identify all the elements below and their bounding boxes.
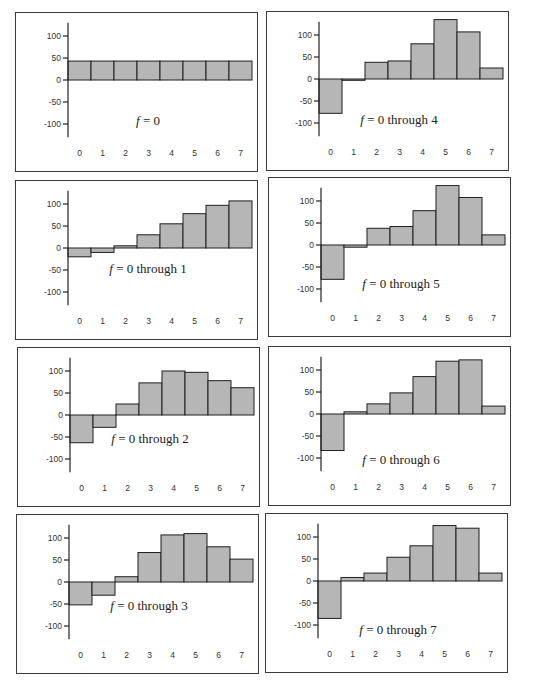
x-tick-label: 6 bbox=[216, 650, 221, 660]
bar-7 bbox=[230, 559, 253, 582]
y-tick-label: 0 bbox=[56, 75, 61, 85]
bar-2 bbox=[367, 228, 390, 245]
y-tick-label: 0 bbox=[309, 240, 314, 250]
bar-7 bbox=[231, 388, 254, 415]
x-tick-label: 6 bbox=[215, 316, 220, 326]
y-tick-label: -100 bbox=[294, 620, 311, 630]
chart-panel-f0-7: 100500-50-10001234567f = 0 through 7 bbox=[265, 513, 508, 673]
x-tick-label: 1 bbox=[351, 147, 356, 157]
x-tick-label: 0 bbox=[79, 483, 84, 493]
y-tick-label: 100 bbox=[297, 532, 311, 542]
bar-6 bbox=[206, 205, 229, 248]
y-tick-label: 50 bbox=[52, 53, 62, 63]
x-tick-label: 0 bbox=[77, 148, 82, 158]
x-tick-label: 4 bbox=[422, 482, 427, 492]
chart-panel-f0-2: 100500-50-10001234567f = 0 through 2 bbox=[17, 347, 260, 507]
x-tick-label: 3 bbox=[399, 482, 404, 492]
y-tick-label: 0 bbox=[309, 409, 314, 419]
bar-4 bbox=[161, 535, 184, 582]
y-tick-label: 50 bbox=[53, 555, 63, 565]
bar-7 bbox=[482, 235, 505, 245]
y-tick-label: 100 bbox=[300, 196, 314, 206]
bar-2 bbox=[364, 573, 387, 581]
y-tick-label: 100 bbox=[300, 365, 314, 375]
x-tick-label: 1 bbox=[100, 148, 105, 158]
x-tick-label: 7 bbox=[238, 316, 243, 326]
bar-6 bbox=[459, 197, 482, 245]
bar-5 bbox=[434, 20, 457, 79]
bar-2 bbox=[365, 62, 388, 79]
x-tick-label: 0 bbox=[328, 147, 333, 157]
chart-caption: f = 0 through 2 bbox=[111, 431, 188, 446]
bar-6 bbox=[456, 528, 479, 581]
x-tick-label: 3 bbox=[397, 147, 402, 157]
x-tick-label: 5 bbox=[442, 649, 447, 659]
bar-6 bbox=[207, 547, 230, 582]
bar-0 bbox=[321, 414, 344, 451]
bar-5 bbox=[183, 214, 206, 248]
bar-5 bbox=[183, 61, 206, 80]
bar-3 bbox=[388, 61, 411, 79]
chart-caption: f = 0 through 1 bbox=[109, 261, 186, 276]
y-tick-label: -50 bbox=[49, 265, 62, 275]
x-tick-label: 4 bbox=[169, 148, 174, 158]
x-tick-label: 3 bbox=[396, 649, 401, 659]
bar-1 bbox=[342, 79, 365, 80]
bar-3 bbox=[390, 393, 413, 414]
x-tick-label: 3 bbox=[148, 483, 153, 493]
bar-chart: 100500-50-10001234567f = 0 through 1 bbox=[16, 181, 257, 339]
bar-chart: 100500-50-10001234567f = 0 through 2 bbox=[18, 348, 259, 506]
x-tick-label: 7 bbox=[238, 148, 243, 158]
bar-7 bbox=[482, 406, 505, 414]
chart-caption: f = 0 through 7 bbox=[359, 622, 437, 637]
bar-6 bbox=[459, 360, 482, 414]
bar-0 bbox=[70, 415, 93, 443]
x-tick-label: 4 bbox=[169, 316, 174, 326]
bar-chart: 100500-50-10001234567f = 0 through 6 bbox=[269, 347, 510, 505]
x-tick-label: 6 bbox=[466, 147, 471, 157]
x-tick-label: 0 bbox=[78, 650, 83, 660]
y-tick-label: 50 bbox=[302, 554, 312, 564]
x-tick-label: 6 bbox=[217, 483, 222, 493]
bar-7 bbox=[229, 201, 252, 248]
bar-chart: 100500-50-10001234567f = 0 through 3 bbox=[17, 515, 258, 673]
x-tick-label: 5 bbox=[192, 316, 197, 326]
bar-3 bbox=[137, 235, 160, 248]
y-tick-label: 50 bbox=[52, 221, 62, 231]
x-tick-label: 0 bbox=[327, 649, 332, 659]
bar-chart: 100500-50-10001234567f = 0 through 4 bbox=[267, 12, 508, 170]
bar-6 bbox=[457, 32, 480, 79]
chart-caption: f = 0 through 6 bbox=[362, 452, 440, 467]
x-tick-label: 7 bbox=[239, 650, 244, 660]
x-tick-label: 4 bbox=[171, 483, 176, 493]
x-tick-label: 5 bbox=[445, 313, 450, 323]
x-tick-label: 5 bbox=[192, 148, 197, 158]
bar-4 bbox=[160, 61, 183, 80]
x-tick-label: 1 bbox=[353, 313, 358, 323]
x-tick-label: 6 bbox=[468, 313, 473, 323]
y-tick-label: 100 bbox=[47, 31, 61, 41]
y-tick-label: 100 bbox=[48, 533, 62, 543]
bar-2 bbox=[114, 246, 137, 248]
x-tick-label: 1 bbox=[350, 649, 355, 659]
bar-0 bbox=[68, 61, 91, 80]
y-tick-label: 50 bbox=[303, 52, 313, 62]
chart-panel-f0-1: 100500-50-10001234567f = 0 through 1 bbox=[15, 180, 258, 340]
x-tick-label: 3 bbox=[146, 316, 151, 326]
x-tick-label: 2 bbox=[373, 649, 378, 659]
y-tick-label: -100 bbox=[44, 287, 61, 297]
x-tick-label: 3 bbox=[399, 313, 404, 323]
x-tick-label: 7 bbox=[491, 313, 496, 323]
x-tick-label: 5 bbox=[193, 650, 198, 660]
x-tick-label: 1 bbox=[353, 482, 358, 492]
x-tick-label: 2 bbox=[123, 316, 128, 326]
bar-0 bbox=[69, 582, 92, 605]
bar-0 bbox=[321, 245, 344, 279]
y-tick-label: 100 bbox=[49, 366, 63, 376]
x-tick-label: 0 bbox=[330, 313, 335, 323]
bar-1 bbox=[344, 245, 367, 247]
x-tick-label: 4 bbox=[422, 313, 427, 323]
chart-panel-f0-4: 100500-50-10001234567f = 0 through 4 bbox=[266, 11, 509, 171]
y-tick-label: -50 bbox=[302, 431, 315, 441]
x-tick-label: 6 bbox=[468, 482, 473, 492]
